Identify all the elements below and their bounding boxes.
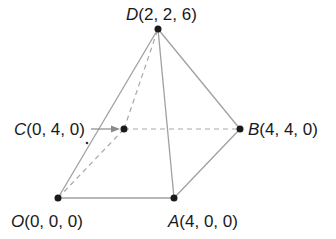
vertices bbox=[55, 26, 244, 202]
edge-AB bbox=[174, 129, 240, 198]
point-O bbox=[55, 195, 62, 202]
stray-mark bbox=[86, 142, 89, 145]
point-C bbox=[121, 126, 128, 133]
arrow-to-C bbox=[91, 126, 120, 133]
solid-edges bbox=[58, 29, 240, 198]
point-A bbox=[171, 195, 178, 202]
label-O: O(0, 0, 0) bbox=[11, 212, 83, 231]
point-D bbox=[155, 26, 162, 33]
label-C: C(0, 4, 0) bbox=[14, 120, 85, 139]
label-A: A(4, 0, 0) bbox=[167, 212, 238, 231]
point-B bbox=[237, 126, 244, 133]
dashed-edges bbox=[58, 29, 240, 198]
edge-OC bbox=[58, 129, 124, 198]
edge-BD bbox=[158, 29, 240, 129]
label-D: D(2, 2, 6) bbox=[126, 5, 197, 24]
edge-AD bbox=[158, 29, 174, 198]
arrowhead-icon bbox=[111, 126, 120, 133]
edge-OD bbox=[58, 29, 158, 198]
label-B: B(4, 4, 0) bbox=[248, 120, 318, 139]
pyramid-diagram: D(2, 2, 6) C(0, 4, 0) B(4, 4, 0) O(0, 0,… bbox=[0, 0, 336, 239]
